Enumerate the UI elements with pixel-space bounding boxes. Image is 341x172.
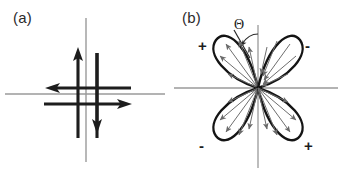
arrow-left [45,83,131,93]
figure-root: (a) [0,0,341,172]
arrow-right [44,99,132,109]
lobe-top-left [213,36,258,88]
lobe-bottom-right [258,88,303,140]
lobe-bottom-left [213,88,258,140]
panel-a-graphic [0,0,170,172]
panel-b: (b) Θ + - - + [170,0,341,172]
arrow-up [73,47,83,138]
lobe-top-right [258,36,303,88]
panel-a: (a) [0,0,170,172]
panel-b-graphic [170,0,341,172]
